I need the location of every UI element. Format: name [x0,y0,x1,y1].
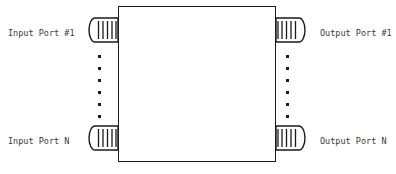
label-input-port-first: Input Port #1 [8,28,75,38]
ellipsis-dot [98,115,101,118]
ellipsis-dots-right [284,55,290,118]
ellipsis-dot [286,91,289,94]
ellipsis-dots-left [96,55,102,118]
ellipsis-dot [286,115,289,118]
connector-output-1 [276,17,306,43]
label-output-port-first: Output Port #1 [320,28,392,38]
label-input-port-last: Input Port N [8,136,69,146]
ellipsis-dot [98,55,101,58]
connector-input-n [88,125,118,151]
connector-output-n [276,125,306,151]
ellipsis-dot [98,79,101,82]
ellipsis-dot [98,103,101,106]
ellipsis-dot [286,67,289,70]
ellipsis-dot [286,55,289,58]
ellipsis-dot [98,67,101,70]
label-output-port-last: Output Port N [320,136,387,146]
diagram-canvas: Input Port #1 Input Port N Output Port #… [0,0,396,174]
connector-input-1 [88,17,118,43]
ellipsis-dot [286,79,289,82]
device-body [118,6,276,162]
ellipsis-dot [98,91,101,94]
ellipsis-dot [286,103,289,106]
